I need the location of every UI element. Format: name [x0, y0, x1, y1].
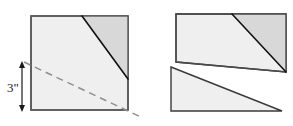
rearranged-lower-piece [171, 67, 282, 111]
geometry-diagram-root: 3" [0, 0, 293, 126]
dimension-arrow-head-bottom [19, 105, 25, 112]
dimension-label-3in: 3" [7, 80, 19, 95]
right-figure-group [171, 14, 286, 111]
figure-canvas: 3" [0, 0, 293, 126]
left-figure-group: 3" [7, 16, 143, 118]
dimension-arrow-3in [19, 61, 25, 112]
